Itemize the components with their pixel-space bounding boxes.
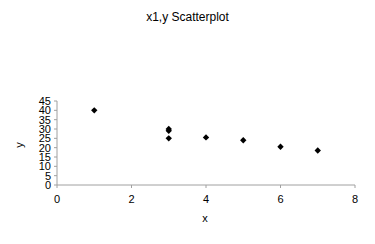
x-tick-label: 4 <box>203 193 209 205</box>
x-tick-label: 8 <box>352 193 358 205</box>
axes: 05101520253035404502468 <box>39 95 358 205</box>
data-point-diamond <box>315 147 321 153</box>
data-point-diamond <box>203 134 209 140</box>
data-point-diamond <box>91 107 97 113</box>
data-point-diamond <box>166 135 172 141</box>
x-tick-label: 6 <box>277 193 283 205</box>
x-tick-label: 2 <box>128 193 134 205</box>
y-axis-label: y <box>13 142 25 148</box>
scatter-plot: 05101520253035404502468 x y <box>0 0 375 244</box>
x-axis-label: x <box>202 212 208 224</box>
data-points <box>91 107 321 154</box>
y-tick-label: 45 <box>39 95 51 107</box>
x-tick-label: 0 <box>54 193 60 205</box>
data-point-diamond <box>240 137 246 143</box>
data-point-diamond <box>277 144 283 150</box>
